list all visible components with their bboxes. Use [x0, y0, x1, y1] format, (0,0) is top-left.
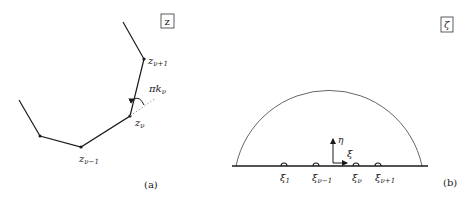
caption-a: (a) — [144, 179, 158, 190]
label-z-v-minus-1: zν−1 — [78, 153, 99, 166]
label-xi-v-plus-1: ξν+1 — [375, 172, 395, 185]
plane-label-zeta: ζ — [444, 19, 450, 30]
caption-b: (b) — [443, 177, 457, 188]
polygon-boundary — [19, 22, 144, 147]
label-xi-1: ξ1 — [280, 172, 290, 185]
axis-label-eta: η — [338, 135, 344, 145]
angle-arc-icon — [134, 98, 144, 105]
panel-a: z zν+1 πkν zν zν−1 (a) — [19, 14, 174, 190]
panel-b: ζ η ξ ξ1 ξν−1 ξν ξν+1 (b) — [232, 17, 457, 188]
label-z-v-plus-1: zν+1 — [147, 55, 168, 68]
label-xi-v-minus-1: ξν−1 — [312, 172, 332, 185]
semicircle-boundary — [236, 90, 422, 166]
axis-label-xi: ξ — [347, 148, 353, 159]
label-xi-v: ξν — [352, 172, 363, 185]
label-z-v: zν — [134, 117, 145, 130]
plane-label-z: z — [165, 16, 170, 27]
vertex-dot-z-v-minus-1 — [79, 145, 82, 148]
label-angle-pi-k-v: πkν — [148, 83, 167, 96]
figure-canvas: z zν+1 πkν zν zν−1 (a) ζ — [0, 0, 465, 202]
vertex-dot-z-v-plus-1 — [142, 57, 145, 60]
vertex-dot — [39, 135, 42, 138]
